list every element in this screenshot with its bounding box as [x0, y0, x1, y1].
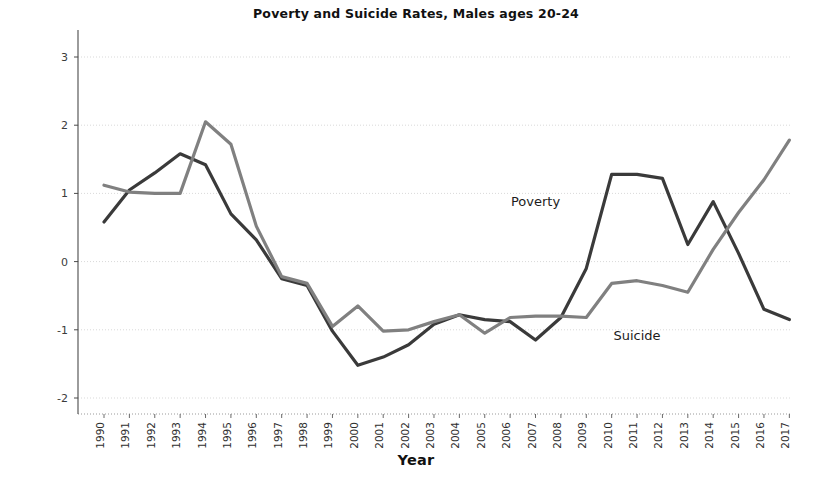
x-tick-label: 2005: [475, 422, 487, 449]
x-tick-label: 2006: [500, 422, 512, 449]
y-tick-label: -2: [57, 392, 68, 405]
x-tick-label: 2009: [576, 422, 588, 449]
x-axis-ticks: 1990199119921993199419951996199719981999…: [94, 414, 791, 449]
x-tick-label: 1992: [145, 422, 157, 449]
y-axis-ticks: 3210-1-2: [57, 51, 78, 405]
x-tick-label: 2010: [602, 422, 614, 449]
y-tick-label: 0: [61, 256, 68, 269]
x-tick-label: 1994: [196, 422, 208, 449]
x-tick-label: 1993: [170, 422, 182, 449]
series-label-suicide: Suicide: [613, 328, 660, 343]
x-tick-label: 1995: [221, 422, 233, 449]
x-tick-label: 2000: [348, 422, 360, 449]
x-tick-label: 1996: [246, 422, 258, 449]
x-tick-label: 2016: [754, 422, 766, 449]
x-tick-label: 2004: [449, 422, 461, 449]
y-tick-label: 2: [61, 119, 68, 132]
x-tick-label: 2002: [399, 422, 411, 449]
x-tick-label: 2007: [526, 422, 538, 449]
x-tick-label: 2012: [652, 422, 664, 449]
x-tick-label: 2008: [551, 422, 563, 449]
x-tick-label: 1999: [322, 422, 334, 449]
x-tick-label: 1998: [297, 422, 309, 449]
x-tick-label: 2011: [627, 422, 639, 449]
x-tick-label: 2001: [373, 422, 385, 449]
y-tick-label: 1: [61, 187, 68, 200]
x-tick-label: 2017: [779, 422, 791, 449]
x-tick-label: 1990: [94, 422, 106, 449]
series-label-poverty: Poverty: [511, 194, 560, 209]
data-series: [104, 122, 789, 365]
y-tick-label: 3: [61, 51, 68, 64]
x-tick-label: 2013: [678, 422, 690, 449]
x-tick-label: 2014: [703, 422, 715, 449]
series-line-suicide: [104, 122, 789, 333]
series-line-poverty: [104, 154, 789, 365]
x-tick-label: 2003: [424, 422, 436, 449]
y-tick-label: -1: [57, 324, 68, 337]
plot-area: 3210-1-2 1990199119921993199419951996199…: [0, 0, 832, 477]
chart-container: Poverty and Suicide Rates, Males ages 20…: [0, 0, 832, 477]
x-tick-label: 1997: [272, 422, 284, 449]
x-tick-label: 1991: [119, 422, 131, 449]
x-tick-label: 2015: [729, 422, 741, 449]
